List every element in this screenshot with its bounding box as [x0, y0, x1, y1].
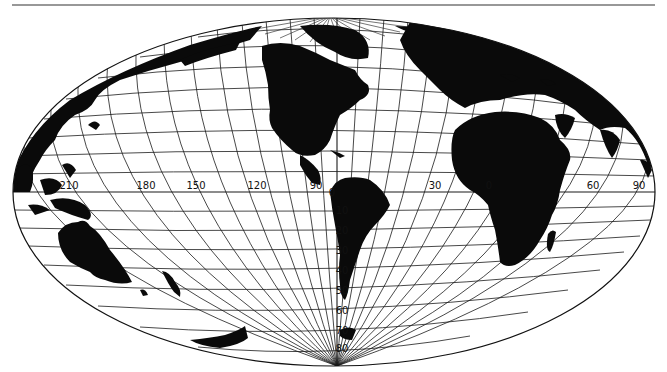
latitude-label: 20 — [336, 225, 349, 236]
longitude-label: 60 — [587, 180, 600, 191]
longitude-label: 150 — [186, 180, 205, 191]
longitude-label: 90 — [633, 180, 646, 191]
latitude-label: 0 — [329, 187, 335, 198]
longitude-label: 90 — [310, 180, 323, 191]
latitude-label: 60 — [336, 305, 349, 316]
southeast-asia-islands — [16, 164, 33, 192]
globe — [0, 0, 667, 372]
latitude-label: 70 — [336, 325, 349, 336]
longitude-label: 0 — [486, 180, 492, 191]
latitude-label: 50 — [336, 285, 349, 296]
latitude-label: 40 — [336, 265, 349, 276]
latitude-label: 10 — [336, 205, 349, 216]
longitude-label: 180 — [136, 180, 155, 191]
longitude-label: 120 — [247, 180, 266, 191]
longitude-label: 210 — [59, 180, 78, 191]
world-map: 210 180 150 120 90 30 0 60 90 0 10 20 30… — [0, 0, 667, 372]
longitude-label: 30 — [429, 180, 442, 191]
latitude-label: 30 — [336, 245, 349, 256]
latitude-label: 80 — [336, 343, 349, 354]
